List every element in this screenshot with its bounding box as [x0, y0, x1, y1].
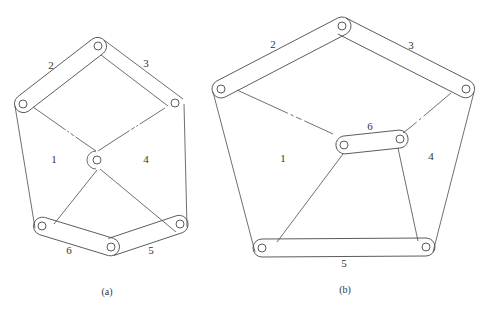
link-label-5: 5: [148, 244, 154, 256]
figure-caption-b: (b): [339, 284, 351, 296]
joint-pin: [19, 100, 27, 108]
link-label-4: 4: [428, 150, 434, 162]
link-2-a: [14, 37, 106, 112]
link-label-5: 5: [341, 257, 347, 269]
link-label-6: 6: [367, 120, 373, 132]
joint-pin: [462, 85, 470, 93]
link-label-1: 1: [51, 153, 57, 165]
link-1-b: [213, 90, 343, 252]
link-label-2: 2: [270, 38, 276, 50]
joint-pin: [258, 244, 266, 252]
link-label-3: 3: [143, 57, 149, 69]
joint-pin: [217, 85, 225, 93]
figure-a: 2 3 1 4 6 5 (a): [14, 37, 188, 298]
joint-pin: [176, 220, 184, 228]
joint-pin: [93, 156, 101, 164]
joint-pin: [338, 22, 346, 30]
link-6-a: [34, 217, 120, 256]
link-label-6: 6: [66, 244, 72, 256]
figure-caption-a: (a): [101, 286, 112, 298]
joint-pin: [396, 135, 404, 143]
figure-b: 2 3 6 1 4 5 (b): [212, 17, 475, 296]
link-label-1: 1: [280, 152, 286, 164]
joint-pin: [107, 243, 115, 251]
link-2-b: [212, 17, 351, 98]
link-4-b: [398, 92, 474, 252]
link-4-a: [87, 104, 187, 232]
joint-pin: [340, 141, 348, 149]
link-3-b: [338, 18, 475, 98]
joint-pin: [38, 222, 46, 230]
joint-pin: [94, 42, 102, 50]
link-3-a: [101, 40, 183, 106]
linkage-diagrams: 2 3 1 4 6 5 (a): [0, 0, 490, 310]
link-label-4: 4: [143, 153, 149, 165]
link-1-a: [15, 106, 97, 228]
joint-pin: [171, 99, 179, 107]
link-5-b: [253, 238, 435, 257]
link-label-2: 2: [48, 59, 54, 71]
joint-pin: [422, 243, 430, 251]
link-label-3: 3: [408, 39, 414, 51]
